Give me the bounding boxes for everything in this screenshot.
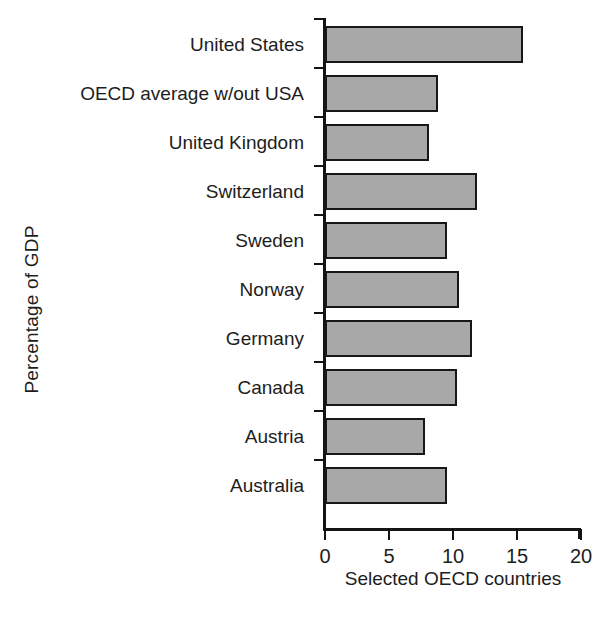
x-tick-label-10: 10 [431,545,475,568]
bar [325,26,523,63]
x-tick-0 [324,529,326,540]
bar [325,467,447,504]
bar [325,418,425,455]
y-tick-9 [314,459,324,461]
category-label: Germany [226,314,304,363]
x-tick-10 [452,529,454,540]
y-tick-5 [314,263,324,265]
x-tick-15 [516,529,518,540]
category-label: United States [190,20,304,69]
category-label: Austria [245,412,304,461]
category-label: Switzerland [206,167,304,216]
bar-chart: Percentage of GDP United StatesOECD aver… [0,0,614,619]
bar [325,75,438,112]
bar [325,320,472,357]
x-axis-title: Selected OECD countries [325,568,581,590]
x-tick-label-5: 5 [367,545,411,568]
y-tick-0 [314,18,324,20]
x-tick-20 [580,529,582,540]
y-tick-7 [314,361,324,363]
x-tick-label-0: 0 [303,545,347,568]
bar [325,271,459,308]
y-tick-3 [314,165,324,167]
bar [325,222,447,259]
category-label: United Kingdom [169,118,304,167]
y-tick-6 [314,312,324,314]
plot-area: 05101520 [325,18,581,528]
bar [325,369,457,406]
y-tick-1 [314,67,324,69]
x-tick-5 [388,529,390,540]
category-label: Canada [237,363,304,412]
bar [325,173,477,210]
category-label: Australia [230,461,304,510]
y-tick-2 [314,116,324,118]
category-label: Norway [240,265,304,314]
category-axis-labels: United StatesOECD average w/out USAUnite… [40,18,310,528]
y-tick-8 [314,410,324,412]
y-tick-4 [314,214,324,216]
category-label: OECD average w/out USA [80,69,304,118]
x-tick-label-20: 20 [559,545,603,568]
bar [325,124,429,161]
category-label: Sweden [235,216,304,265]
x-tick-label-15: 15 [495,545,539,568]
